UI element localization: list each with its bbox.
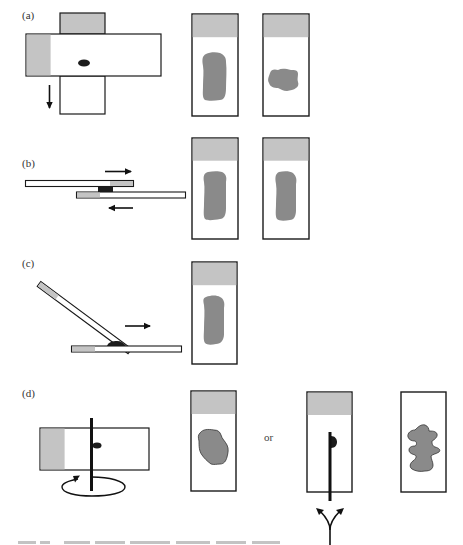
- result-slide-b1: [192, 138, 238, 239]
- smear-blob: [203, 296, 224, 345]
- result-slide-b2: [263, 138, 309, 239]
- result-slide-a1: [192, 14, 238, 116]
- smear-blob: [204, 171, 227, 220]
- specimen-squash: [98, 187, 113, 193]
- rod: [329, 432, 332, 501]
- panel-c: (c): [22, 257, 237, 364]
- rotating-rod: [90, 418, 93, 491]
- result-slide-d1: [191, 391, 236, 491]
- result-slide-d3: [401, 392, 446, 492]
- bottom-slide-end: [60, 76, 105, 114]
- result-slide-c1: [192, 262, 237, 364]
- result-slide-a2: [263, 14, 309, 116]
- panel-b: (b): [22, 138, 309, 239]
- diverging-arrows-icon: [316, 508, 344, 545]
- or-label: or: [264, 431, 274, 443]
- panel-b-label: (b): [22, 157, 35, 170]
- panel-a: (a): [22, 9, 309, 116]
- specimen-drop: [107, 341, 126, 346]
- specimen-drop: [93, 443, 102, 449]
- rotation-arrow-icon: [62, 477, 125, 496]
- rotation-arrowhead: [73, 476, 80, 483]
- panel-a-label: (a): [22, 9, 35, 22]
- result-slide-d2: [307, 392, 352, 501]
- specimen-drop: [78, 60, 90, 67]
- top-slide-frosted-end: [60, 13, 105, 34]
- smear-blob: [202, 52, 226, 100]
- caption-fragment: [18, 541, 280, 544]
- panel-d-label: (d): [22, 387, 35, 400]
- smear-blob: [275, 171, 296, 220]
- specimen-preparation-diagram: (a) (b): [0, 0, 463, 545]
- horizontal-slide-frosted-end: [41, 429, 65, 470]
- panel-d: (d) or: [22, 387, 446, 545]
- upper-slide-frosted-end: [110, 181, 133, 186]
- base-slide-frosted-end: [72, 347, 95, 352]
- lower-slide-frosted-end: [77, 193, 100, 198]
- panel-c-label: (c): [22, 257, 35, 270]
- horizontal-slide-frosted-end: [27, 35, 51, 76]
